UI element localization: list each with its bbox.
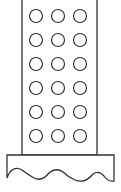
wavy-base (7, 155, 114, 181)
building-diagram (0, 0, 121, 192)
tower (22, 0, 97, 155)
